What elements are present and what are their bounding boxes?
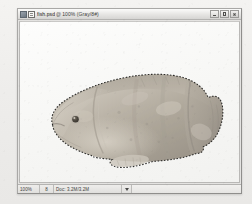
status-size-field[interactable]: 8 <box>40 185 54 193</box>
fish-eye <box>71 115 80 124</box>
application-icon <box>20 11 27 18</box>
title-zoom-label: 100% (Gray/8#) <box>62 11 99 18</box>
desktop-backdrop: fish.psd @ 100% (Gray/8#) <box>0 0 252 204</box>
status-document-info: Doc: 3.2M/3.2M <box>54 185 122 193</box>
image-canvas[interactable] <box>19 21 240 183</box>
window-controls <box>210 10 240 18</box>
triangle-up-icon[interactable] <box>122 185 132 193</box>
close-button[interactable] <box>230 10 239 18</box>
status-bar-filler <box>132 185 241 193</box>
image-editor-window: fish.psd @ 100% (Gray/8#) <box>17 8 242 194</box>
status-zoom-level[interactable]: 100% <box>18 185 40 193</box>
fish-photograph[interactable] <box>20 22 239 182</box>
status-bar: 100% 8 Doc: 3.2M/3.2M <box>18 184 241 193</box>
title-bar-drag-area[interactable] <box>99 9 210 19</box>
window-title: fish.psd <box>37 11 55 18</box>
minimize-button[interactable] <box>210 10 219 18</box>
title-bar[interactable]: fish.psd @ 100% (Gray/8#) <box>18 9 241 20</box>
title-separator: @ <box>56 11 61 18</box>
document-icon <box>28 11 35 18</box>
triangle-up-glyph <box>125 188 129 191</box>
maximize-button[interactable] <box>220 10 229 18</box>
